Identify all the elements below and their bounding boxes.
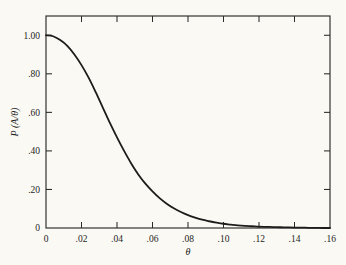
chart-figure: 0.02.04.06.08.10.12.14.16 0.20.40.60.801… — [0, 0, 346, 265]
y-axis-ticks-right — [324, 35, 330, 189]
axes-frame — [46, 16, 330, 228]
x-tick-label: .16 — [324, 234, 336, 244]
y-tick-label: 1.00 — [23, 31, 40, 41]
x-tick-label: .12 — [253, 234, 265, 244]
x-tick-label: .08 — [182, 234, 194, 244]
x-axis-ticks-top — [82, 16, 295, 22]
x-axis-label: θ — [186, 246, 191, 257]
x-tick-label: .14 — [289, 234, 301, 244]
x-tick-label: .06 — [147, 234, 159, 244]
y-tick-label: .40 — [28, 146, 40, 156]
y-tick-label: .60 — [28, 108, 40, 118]
x-tick-label: .10 — [218, 234, 230, 244]
data-series-group — [46, 35, 330, 228]
probability-decay-curve — [46, 35, 330, 228]
x-axis-tick-labels: 0.02.04.06.08.10.12.14.16 — [44, 234, 337, 244]
y-axis-label: P (A/θ) — [9, 107, 21, 138]
y-tick-label: .20 — [28, 185, 40, 195]
plot-frame-border — [46, 16, 330, 228]
x-tick-label: .04 — [111, 234, 123, 244]
x-tick-label: 0 — [44, 234, 49, 244]
y-axis-tick-labels: 0.20.40.60.801.00 — [23, 31, 40, 234]
x-tick-label: .02 — [76, 234, 88, 244]
y-tick-label: 0 — [35, 223, 40, 233]
y-axis-ticks-left — [46, 35, 52, 189]
chart-canvas: 0.02.04.06.08.10.12.14.16 0.20.40.60.801… — [0, 0, 346, 265]
y-tick-label: .80 — [28, 69, 40, 79]
